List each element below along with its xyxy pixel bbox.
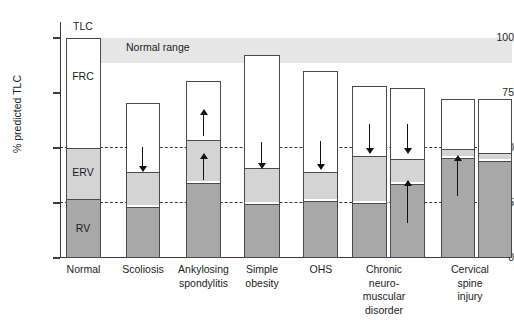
label-rv: RV [53, 222, 113, 234]
y-tick-0 [53, 257, 60, 258]
arrow-frc-decrease [364, 124, 375, 155]
normal-range-label: Normal range [126, 41, 190, 53]
bar-chronic-neuromuscular-b [390, 88, 425, 259]
segment-rv [187, 183, 220, 257]
arrow-frc-decrease [315, 141, 326, 171]
arrow-frc-decrease [137, 147, 148, 173]
category-label-ohs: OHS [290, 263, 352, 277]
y-tick-label-100: 100 [488, 32, 514, 42]
segment-rv [479, 161, 511, 257]
segment-erv [304, 172, 337, 199]
y-tick-25 [53, 202, 60, 203]
bar-scoliosis [126, 103, 160, 258]
segment-erv [245, 168, 279, 202]
segment-erv [391, 159, 424, 182]
segment-rv [127, 207, 159, 257]
category-label-ankylosing-spondylitis: Ankylosing spondylitis [172, 263, 235, 290]
y-tick-label-75: 75 [488, 87, 514, 97]
label-frc: FRC [53, 70, 113, 82]
segment-rv [353, 203, 386, 257]
segment-rv [245, 204, 279, 257]
y-tick-75 [53, 92, 60, 93]
arrow-frc-increase [198, 109, 209, 137]
segment-erv [127, 172, 159, 205]
segment-erv [479, 153, 511, 159]
y-tick-50 [53, 147, 60, 148]
segment-rv [304, 201, 337, 257]
arrow-rv-increase [198, 153, 209, 181]
label-erv: ERV [53, 166, 113, 178]
y-tick-100 [53, 37, 60, 38]
segment-erv [353, 156, 386, 201]
arrow-rv-increase [402, 180, 413, 224]
label-tlc: TLC [53, 20, 113, 32]
bar-chronic-neuromuscular-a [352, 86, 387, 258]
y-axis-title: % predicted TLC [11, 66, 23, 162]
category-label-cervical-spine-injury: Cervical spine injury [438, 263, 502, 304]
chart-figure: Normal range % predicted TLC 100 75 50 2… [0, 0, 514, 327]
category-label-chronic-neuromuscular-disorder: Chronic neuro- muscular disorder [352, 263, 416, 317]
category-label-simple-obesity: Simple obesity [231, 263, 293, 290]
arrow-frc-decrease [402, 124, 413, 155]
plot-area: Normal range % predicted TLC 100 75 50 2… [0, 0, 514, 327]
arrow-rv-increase [452, 155, 463, 197]
arrow-frc-decrease [256, 142, 267, 170]
category-label-normal: Normal [53, 263, 114, 277]
bar-cervical-spine-b [478, 99, 512, 259]
category-label-scoliosis: Scoliosis [112, 263, 174, 277]
